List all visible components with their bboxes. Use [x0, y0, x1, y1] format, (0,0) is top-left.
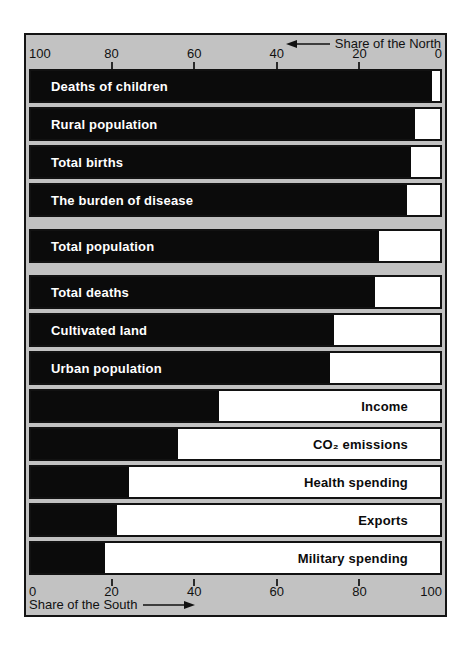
south-share-segment — [31, 543, 105, 573]
north-south-share-chart: Share of the North 100 80 60 40 20 0 Dea… — [24, 33, 447, 617]
bar-row: The burden of disease — [29, 183, 442, 217]
bar-label: Health spending — [304, 475, 408, 490]
tick-label: 20 — [352, 47, 366, 61]
bar-row: CO₂ emissions — [29, 427, 442, 461]
arrow-right-icon — [143, 600, 195, 610]
bar-row: Income — [29, 389, 442, 423]
bar-row: Total births — [29, 145, 442, 179]
tick-label: 100 — [29, 47, 51, 61]
tick-mark — [358, 62, 360, 69]
tick-label: 80 — [352, 585, 366, 599]
bar-row: Health spending — [29, 465, 442, 499]
bars-area: Deaths of childrenRural populationTotal … — [29, 69, 442, 575]
bar-label: Deaths of children — [51, 79, 168, 94]
south-share-segment — [31, 467, 129, 497]
bar-row: Rural population — [29, 107, 442, 141]
bar-row: Total deaths — [29, 275, 442, 309]
tick-label: 60 — [270, 585, 284, 599]
south-share-segment — [31, 391, 219, 421]
top-axis-tick-labels: 100 80 60 40 20 0 — [29, 47, 442, 61]
bar-label: Rural population — [51, 117, 157, 132]
bar-row: Exports — [29, 503, 442, 537]
tick-label: 0 — [435, 47, 442, 61]
bar-label: Total population — [51, 239, 154, 254]
bar-label: Total births — [51, 155, 123, 170]
bottom-axis: 0 20 40 60 80 100 Share of the South — [29, 579, 442, 611]
tick-label: 40 — [270, 47, 284, 61]
tick-label: 80 — [104, 47, 118, 61]
south-share-segment — [31, 429, 178, 459]
bar-row: Urban population — [29, 351, 442, 385]
bar-label: Urban population — [51, 361, 162, 376]
tick-mark — [193, 62, 195, 69]
bar-row: Cultivated land — [29, 313, 442, 347]
bar-label: CO₂ emissions — [313, 437, 408, 452]
bar-label: Military spending — [298, 551, 408, 566]
bar-label: Income — [361, 399, 408, 414]
bar-label: The burden of disease — [51, 193, 193, 208]
bottom-axis-title: Share of the South — [29, 597, 137, 612]
top-axis: Share of the North 100 80 60 40 20 0 — [29, 35, 442, 69]
tick-label: 60 — [187, 47, 201, 61]
bar-label: Total deaths — [51, 285, 129, 300]
bar-row: Deaths of children — [29, 69, 442, 103]
bar-row: Total population — [29, 229, 442, 263]
tick-label: 100 — [420, 585, 442, 599]
bar-row: Military spending — [29, 541, 442, 575]
south-share-segment — [31, 505, 117, 535]
tick-mark — [276, 62, 278, 69]
tick-mark — [111, 62, 113, 69]
bottom-axis-title-group: Share of the South — [29, 597, 195, 612]
bar-label: Exports — [358, 513, 408, 528]
bar-label: Cultivated land — [51, 323, 147, 338]
